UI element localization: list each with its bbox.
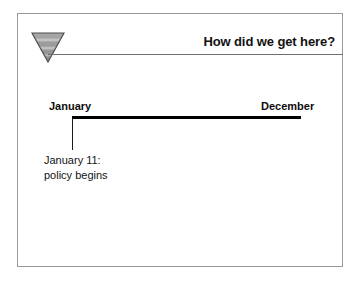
timeline-chart: January December January 11: policy begi…	[18, 14, 344, 268]
milestone-tick-line	[72, 118, 73, 150]
timeline-axis-line	[72, 116, 301, 119]
timeline-end-label: December	[261, 100, 314, 112]
milestone-annotation: January 11: policy begins	[44, 153, 108, 183]
slide-canvas: How did we get here? January December Ja…	[17, 13, 343, 267]
milestone-annotation-line-2: policy begins	[44, 168, 108, 183]
timeline-start-label: January	[49, 100, 91, 112]
milestone-annotation-line-1: January 11:	[44, 153, 108, 168]
